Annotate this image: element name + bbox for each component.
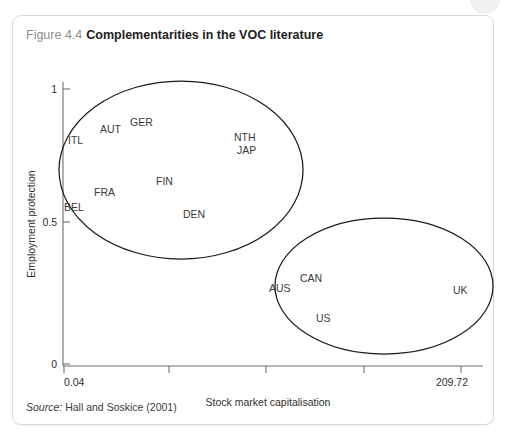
corner-badge xyxy=(470,0,500,14)
point-label-den: DEN xyxy=(183,208,205,220)
cluster-ellipse-coordinated xyxy=(59,81,303,259)
point-label-bel: BEL xyxy=(64,201,84,213)
point-label-ger: GER xyxy=(130,116,153,128)
scatter-plot: 1 0.5 0 0.04 209.72 Stock market capital… xyxy=(13,16,495,426)
point-label-us: US xyxy=(316,312,331,324)
point-label-itl: ITL xyxy=(68,134,83,146)
point-label-aus: AUS xyxy=(269,282,291,294)
x-tick-label-min: 0.04 xyxy=(64,376,85,388)
point-label-nth: NTH xyxy=(234,131,256,143)
y-axis-title: Employment protection xyxy=(25,170,37,278)
point-label-aut: AUT xyxy=(100,123,122,135)
point-label-uk: UK xyxy=(453,284,468,296)
y-tick-label-1: 1 xyxy=(51,83,57,95)
y-tick-label-0point5: 0.5 xyxy=(42,216,57,228)
x-tick-label-max: 209.72 xyxy=(436,376,468,388)
point-label-fra: FRA xyxy=(94,186,115,198)
figure-card: Figure 4.4Complementarities in the VOC l… xyxy=(12,15,494,425)
source-note: Source:Hall and Soskice (2001) xyxy=(26,401,177,413)
y-tick-label-0: 0 xyxy=(51,358,57,370)
x-axis-title: Stock market capitalisation xyxy=(206,396,331,408)
point-label-can: CAN xyxy=(300,272,322,284)
source-label: Source: xyxy=(26,401,62,413)
point-label-fin: FIN xyxy=(156,175,173,187)
source-text: Hall and Soskice (2001) xyxy=(65,401,176,413)
point-label-jap: JAP xyxy=(237,144,256,156)
